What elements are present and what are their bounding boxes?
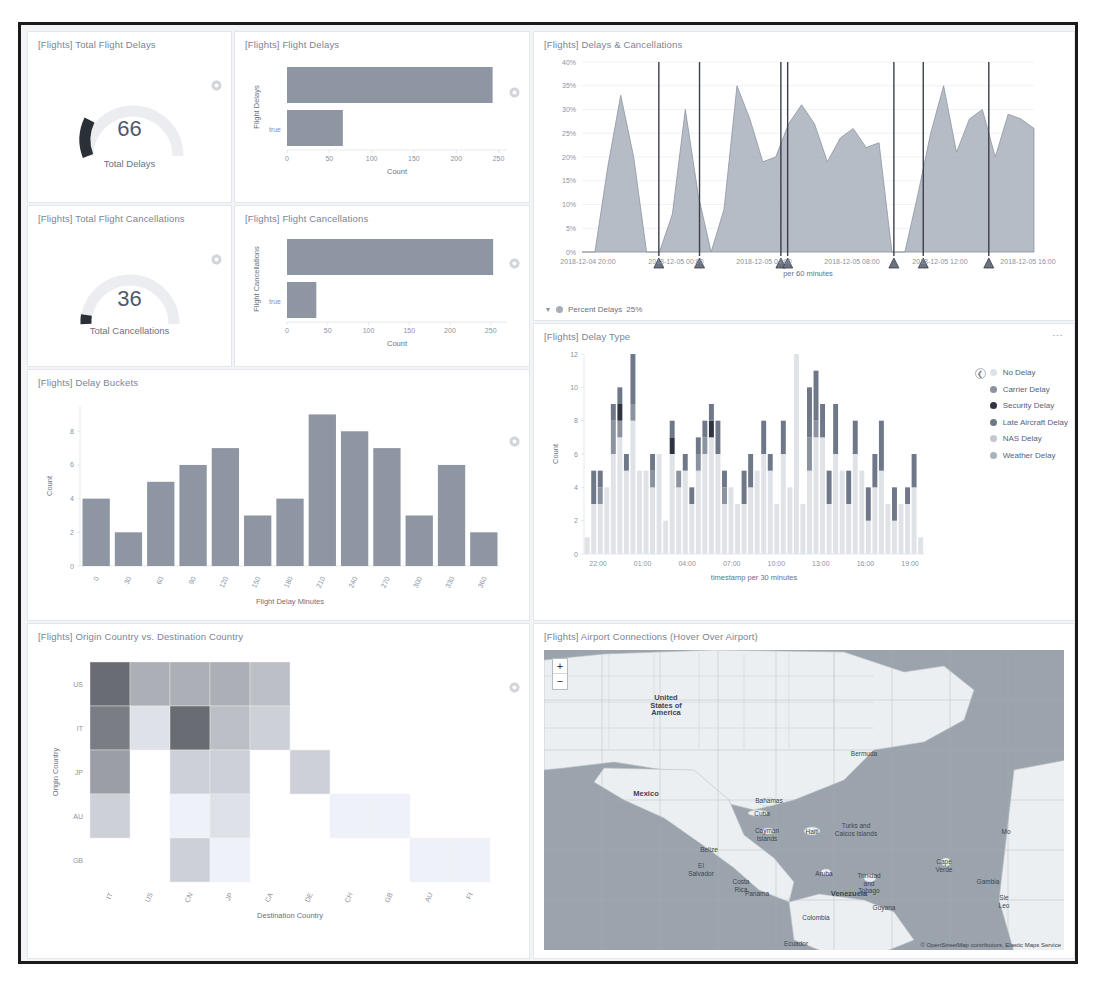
map-label: Mexico [618,790,674,798]
svg-text:2018-12-05 08:00: 2018-12-05 08:00 [824,258,879,265]
svg-text:250: 250 [485,327,497,334]
svg-text:13:00: 13:00 [812,560,830,567]
svg-text:0: 0 [285,327,289,334]
svg-text:200: 200 [444,327,456,334]
svg-text:DE: DE [303,891,314,903]
legend-color-swatch [990,419,997,426]
svg-text:2018-12-05 04:00: 2018-12-05 04:00 [736,258,791,265]
delay-type-legend: ❮ No DelayCarrier DelaySecurity DelayLat… [990,368,1068,467]
legend-value: 25% [626,305,642,314]
panel-menu-icon[interactable]: ⋯ [1052,333,1064,339]
svg-text:2: 2 [574,517,578,524]
svg-text:20%: 20% [562,154,576,161]
legend-item-security-delay[interactable]: Security Delay [990,401,1068,410]
gauge-value: 66 [28,116,231,142]
svg-text:01:00: 01:00 [634,560,652,567]
svg-text:2018-12-04 20:00: 2018-12-04 20:00 [560,258,615,265]
svg-text:true: true [269,298,281,305]
panel-total-flight-cancellations[interactable]: [Flights] Total Flight Cancellations 36 … [27,205,232,367]
svg-text:25%: 25% [562,130,576,137]
map-label: Cape Verde [916,858,972,873]
legend-label: Weather Delay [1003,451,1056,460]
zoom-out-icon[interactable]: − [553,674,567,689]
chart-legend[interactable]: ▾ Percent Delays 25% [546,305,642,314]
svg-text:2018-12-05 16:00: 2018-12-05 16:00 [1000,258,1055,265]
legend-item-late-aircraft-delay[interactable]: Late Aircraft Delay [990,418,1068,427]
legend-color-swatch [556,306,563,313]
panel-title: [Flights] Flight Cancellations [235,206,529,224]
svg-text:07:00: 07:00 [723,560,741,567]
svg-text:100: 100 [363,327,375,334]
panel-delays-cancellations[interactable]: [Flights] Delays & Cancellations 40%35%3… [533,31,1075,321]
svg-text:22:00: 22:00 [589,560,607,567]
legend-item-nas-delay[interactable]: NAS Delay [990,434,1068,443]
svg-text:Destination Country: Destination Country [257,911,323,920]
svg-text:10:00: 10:00 [768,560,786,567]
svg-text:210: 210 [315,575,326,589]
svg-text:GB: GB [383,891,394,903]
panel-delay-buckets[interactable]: [Flights] Delay Buckets 0246803060901201… [27,369,530,621]
legend-item-weather-delay[interactable]: Weather Delay [990,451,1068,460]
svg-text:120: 120 [218,575,229,589]
svg-text:6: 6 [574,451,578,458]
panel-title: [Flights] Delay Buckets [28,370,529,388]
svg-text:100: 100 [366,155,378,162]
svg-text:FI: FI [465,891,474,900]
chart-delay-type: 02468101222:0001:0004:0007:0010:0013:001… [534,340,954,612]
legend-color-swatch [990,386,997,393]
panel-flight-cancellations[interactable]: [Flights] Flight Cancellations 050100150… [234,205,530,367]
panel-origin-destination[interactable]: [Flights] Origin Country vs. Destination… [27,623,530,959]
svg-text:300: 300 [412,575,423,589]
svg-text:8: 8 [574,417,578,424]
panel-flight-delays[interactable]: [Flights] Flight Delays 050100150200250t… [234,31,530,203]
panel-airport-connections[interactable]: [Flights] Airport Connections (Hover Ove… [533,623,1075,959]
map-label: Bahamas [741,797,797,805]
svg-text:240: 240 [347,575,358,589]
svg-text:US: US [73,681,83,688]
legend-item-carrier-delay[interactable]: Carrier Delay [990,385,1068,394]
svg-text:4: 4 [574,484,578,491]
legend-item-no-delay[interactable]: No Delay [990,368,1068,377]
svg-text:AU: AU [73,813,83,820]
legend-collapse-icon[interactable]: ❮ [975,368,986,379]
svg-text:CN: CN [183,891,194,903]
legend-label: No Delay [1003,368,1036,377]
svg-text:Count: Count [45,475,54,496]
map-label: Turks and Caicos Islands [828,822,884,837]
svg-text:250: 250 [493,155,505,162]
svg-text:150: 150 [250,575,261,589]
chevron-down-icon[interactable]: ▾ [546,305,550,314]
legend-label: Security Delay [1003,401,1055,410]
svg-text:270: 270 [380,575,391,589]
svg-text:12: 12 [570,351,578,358]
svg-text:Count: Count [387,339,408,348]
svg-text:Count: Count [387,167,408,176]
panel-total-flight-delays[interactable]: [Flights] Total Flight Delays 66 Total D… [27,31,232,203]
legend-color-swatch [990,402,997,409]
svg-text:150: 150 [408,155,420,162]
map-canvas[interactable]: + − © OpenStreetMap contributors, Elasti… [544,650,1064,950]
svg-text:16:00: 16:00 [857,560,875,567]
svg-text:0: 0 [92,575,100,582]
zoom-in-icon[interactable]: + [553,659,567,674]
svg-text:0: 0 [285,155,289,162]
dashboard-frame: [Flights] Total Flight Delays 66 Total D… [18,22,1078,964]
svg-text:2018-12-05 12:00: 2018-12-05 12:00 [912,258,967,265]
svg-text:Origin Country: Origin Country [51,748,60,797]
map-zoom-controls[interactable]: + − [552,658,568,690]
svg-text:0: 0 [574,551,578,558]
svg-text:Count: Count [551,443,560,464]
svg-text:timestamp per 30 minutes: timestamp per 30 minutes [711,573,798,582]
svg-text:8: 8 [70,428,74,435]
map-label: Guyana [856,904,912,912]
gauge-label: Total Cancellations [28,325,231,336]
map-label: Sie Leo [976,894,1032,909]
svg-text:15%: 15% [562,177,576,184]
svg-text:5%: 5% [566,225,576,232]
chart-delay-buckets: 024680306090120150180210240270300330360F… [28,392,530,620]
panel-delay-type[interactable]: [Flights] Delay Type ⋯ 02468101222:0001:… [533,323,1075,621]
svg-text:30: 30 [123,575,133,585]
gauge-value: 36 [28,286,231,312]
svg-text:50: 50 [324,327,332,334]
legend-label: Percent Delays [568,305,622,314]
